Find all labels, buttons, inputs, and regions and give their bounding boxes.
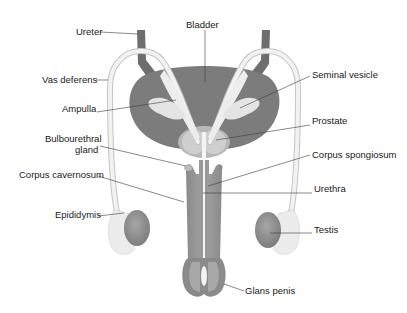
label-urethra: Urethra (314, 183, 346, 194)
label-bulbourethral-line2: gland (75, 144, 98, 155)
label-epididymis: Epididymis (55, 209, 101, 220)
label-seminal-vesicle: Seminal vesicle (312, 69, 378, 80)
testis-left (124, 210, 150, 246)
label-corpus-cavernosum: Corpus cavernosum (19, 169, 104, 180)
label-corpus-spongiosum: Corpus spongiosum (312, 149, 397, 160)
leader-ureter (100, 32, 138, 34)
label-bulbourethral-line1: Bulbourethral (45, 133, 102, 144)
testis-right (255, 212, 281, 248)
male-reproductive-diagram: Ureter Bladder Vas deferens Seminal vesi… (0, 0, 407, 313)
label-glans-penis: Glans penis (245, 285, 295, 296)
label-prostate: Prostate (312, 115, 347, 126)
label-ampulla: Ampulla (62, 103, 97, 114)
label-ureter: Ureter (76, 26, 102, 37)
label-testis: Testis (314, 224, 339, 235)
urethral-opening (201, 266, 207, 286)
leader-glans-penis (224, 284, 244, 291)
label-vas-deferens: Vas deferens (42, 74, 98, 85)
label-bladder: Bladder (186, 19, 219, 30)
